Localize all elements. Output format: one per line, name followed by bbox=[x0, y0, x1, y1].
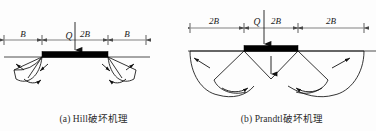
prandtl-dim-label-right: 2B bbox=[326, 16, 337, 26]
panel-prandtl-mechanism: 2B 2B 2B Q bbox=[188, 0, 376, 131]
bearing-capacity-failure-figure: B 2B B Q bbox=[0, 0, 376, 131]
hill-footing bbox=[42, 52, 108, 58]
prandtl-left-wedge bbox=[190, 51, 271, 97]
prandtl-load-label: Q bbox=[254, 17, 261, 27]
hill-right-wedge bbox=[108, 57, 136, 81]
prandtl-slip-arrows bbox=[194, 58, 350, 92]
hill-load-label: Q bbox=[66, 31, 73, 41]
hill-dim-label-left: B bbox=[20, 29, 26, 39]
prandtl-footing bbox=[244, 46, 298, 52]
hill-dim-label-center: 2B bbox=[80, 29, 91, 39]
hill-dim-label-right: B bbox=[124, 29, 130, 39]
hill-slip-arrows bbox=[16, 64, 134, 83]
prandtl-dim-label-left: 2B bbox=[209, 16, 220, 26]
hill-caption: (a) Hill破坏机理 bbox=[0, 111, 188, 125]
prandtl-caption: (b) Prandtl破坏机理 bbox=[188, 111, 376, 125]
panel-hill-mechanism: B 2B B Q bbox=[0, 0, 188, 131]
prandtl-dim-label-center: 2B bbox=[271, 16, 282, 26]
hill-left-wedge bbox=[14, 57, 42, 81]
